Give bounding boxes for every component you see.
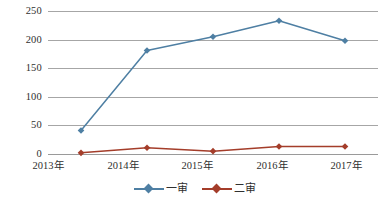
series-line-yishen [78, 17, 349, 133]
data-point-marker[interactable] [276, 17, 283, 24]
line-chart: 250 200 150 100 50 0 2013年 2014年 2015年 2… [0, 0, 390, 205]
data-point-marker[interactable] [276, 143, 283, 150]
legend-label-yishen: 一审 [166, 183, 188, 194]
legend-item-yishen[interactable]: 一审 [134, 183, 188, 194]
data-point-marker[interactable] [144, 144, 151, 151]
data-point-marker[interactable] [342, 143, 349, 150]
legend-item-ershen[interactable]: 二审 [202, 183, 256, 194]
data-point-marker[interactable] [210, 33, 217, 40]
series-layer [0, 0, 390, 205]
legend-swatch-ershen [202, 184, 232, 194]
legend-swatch-yishen [134, 184, 164, 194]
data-point-marker[interactable] [342, 37, 349, 44]
data-point-marker[interactable] [210, 148, 217, 155]
x-axis-tick-2016: 2016年 [237, 160, 307, 172]
legend-label-ershen: 二审 [234, 183, 256, 194]
x-axis-tick-2014: 2014年 [88, 160, 158, 172]
x-axis-tick-2017: 2017年 [311, 160, 381, 172]
x-axis-tick-2015: 2015年 [162, 160, 232, 172]
series-line-ershen [78, 143, 349, 156]
data-point-marker[interactable] [78, 150, 85, 157]
x-axis-tick-2013: 2013年 [13, 160, 83, 172]
legend: 一审 二审 [0, 183, 390, 194]
